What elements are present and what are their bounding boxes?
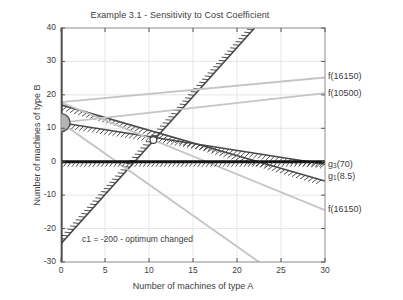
y-tick-label: 40 <box>32 22 56 32</box>
x-tick-label: 25 <box>269 265 293 275</box>
x-tick-label: 0 <box>49 265 73 275</box>
figure-container: Example 3.1 - Sensitivity to Cost Coeffi… <box>0 0 403 300</box>
series-label-f(10500): f(10500) <box>328 88 362 98</box>
y-tick-label: 0 <box>32 156 56 166</box>
y-axis-title: Number of machines of type B <box>32 45 42 245</box>
series-label-f(16150)-lower: f(16150) <box>328 204 362 214</box>
x-axis-title: Number of machines of type A <box>61 281 325 291</box>
x-tick-label: 30 <box>313 265 337 275</box>
plot-area <box>0 0 403 300</box>
y-tick-label: -30 <box>32 256 56 266</box>
annotation-cost-coefficient: c1 = -200 - optimum changed <box>82 234 193 244</box>
x-tick-label: 15 <box>181 265 205 275</box>
series-label-g3(70): g3(70) <box>328 159 353 169</box>
x-tick-label: 10 <box>137 265 161 275</box>
series-label-g1(8.5): g1(8.5) <box>328 171 355 181</box>
y-tick-label: -10 <box>32 189 56 199</box>
y-tick-label: -20 <box>32 223 56 233</box>
y-tick-label: 10 <box>32 122 56 132</box>
series-nonnegativity-A <box>56 28 61 264</box>
y-tick-label: 20 <box>32 89 56 99</box>
x-tick-label: 5 <box>93 265 117 275</box>
marker-previous-vertex-point <box>150 137 157 144</box>
x-tick-label: 20 <box>225 265 249 275</box>
y-tick-label: 30 <box>32 55 56 65</box>
series-label-f(16150)-upper: f(16150) <box>328 71 362 81</box>
